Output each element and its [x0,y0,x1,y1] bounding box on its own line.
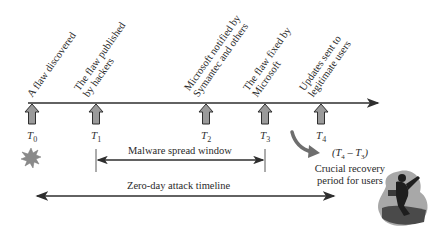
time-label-T1: T1 [91,129,101,144]
event-arrow-T2 [199,104,213,124]
time-label-T3: T3 [260,129,270,144]
time-label-T0: T0 [27,129,37,144]
event-arrow-T4 [314,104,328,124]
event-arrow-T0 [25,104,39,124]
event-arrow-T1 [89,104,103,124]
recovery-line2: period for users [300,175,400,187]
time-label-T1-sub: 1 [97,135,101,144]
time-label-T4: T4 [316,129,326,144]
recovery-line1: Crucial recovery [300,163,400,175]
recovery-formula: (T4 – T3) [300,147,400,163]
zero-day-timeline-diagram: A flaw discovered The flaw published by … [0,0,438,229]
malware-window-label: Malware spread window [128,145,232,156]
time-label-T2-sub: 2 [207,135,211,144]
formula-minus: – [345,147,356,158]
time-label-T3-sub: 3 [266,135,270,144]
time-label-T0-sub: 0 [33,135,37,144]
formula-close: ) [365,147,369,158]
recovery-note: (T4 – T3) Crucial recovery period for us… [300,147,400,187]
event-arrow-T3 [258,104,272,124]
time-label-T2: T2 [201,129,211,144]
zero-day-label: Zero-day attack timeline [127,180,230,191]
starburst-icon [21,148,41,168]
time-label-T4-sub: 4 [322,135,326,144]
